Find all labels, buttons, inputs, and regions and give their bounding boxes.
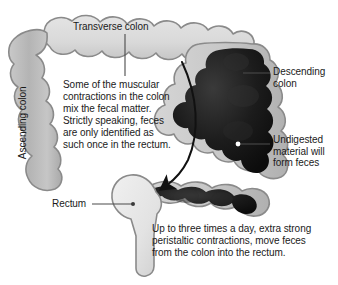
label-ascending-colon: Ascending colon bbox=[17, 84, 29, 162]
label-rectum: Rectum bbox=[52, 198, 86, 210]
label-descending-colon: Descending colon bbox=[273, 66, 325, 89]
note-peristaltic-contractions: Up to three times a day, extra strong pe… bbox=[152, 223, 332, 259]
undigested-marker-dot bbox=[236, 142, 241, 147]
note-mixing-contractions: Some of the muscular contractions in the… bbox=[63, 79, 187, 152]
label-undigested-material: Undigested material will form feces bbox=[273, 134, 325, 169]
colon-diagram: Transverse colon Ascending colon Descend… bbox=[0, 0, 338, 285]
rectum-marker-dot bbox=[131, 202, 135, 206]
label-transverse-colon: Transverse colon bbox=[73, 21, 149, 33]
